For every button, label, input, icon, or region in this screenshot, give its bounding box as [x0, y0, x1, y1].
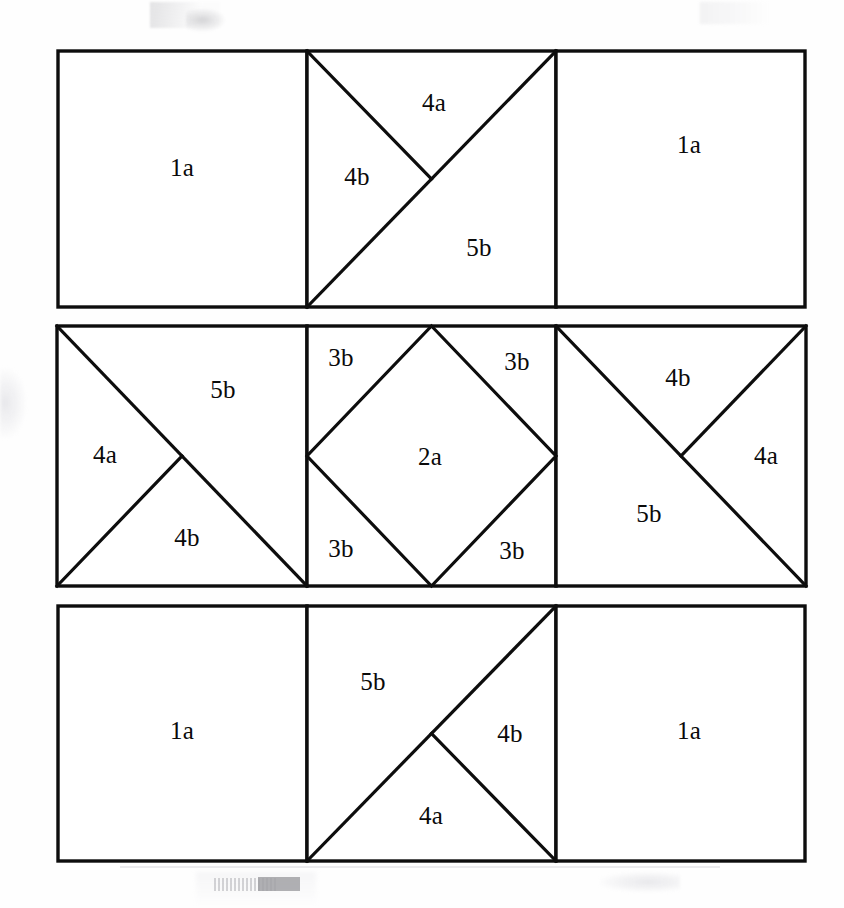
label-middle-center-3b-tr: 3b	[504, 348, 530, 375]
label-middle-center-3b-br: 3b	[499, 537, 525, 564]
label-middle-right-5b: 5b	[636, 500, 662, 527]
label-bottom-right-1a: 1a	[677, 717, 701, 744]
label-top-left-1a: 1a	[170, 154, 194, 181]
label-middle-center-3b-tl: 3b	[328, 344, 354, 371]
label-bottom-center-4a: 4a	[419, 802, 443, 829]
label-bottom-center-5b: 5b	[360, 668, 386, 695]
label-middle-right-4a: 4a	[754, 442, 778, 469]
quilt-block-svg: 1a 4a 4b 5b 1a 5b 4a 4b 3b 3b 2a	[0, 0, 844, 908]
panel-top-right	[556, 51, 805, 307]
label-top-center-5b: 5b	[466, 234, 492, 261]
label-middle-right-4b: 4b	[665, 364, 691, 391]
label-bottom-left-1a: 1a	[170, 717, 194, 744]
label-middle-left-4b: 4b	[174, 524, 200, 551]
label-middle-center-2a: 2a	[418, 443, 442, 470]
row-bottom: 1a 5b 4b 4a 1a	[58, 606, 805, 861]
label-middle-center-3b-bl: 3b	[328, 535, 354, 562]
quilt-diagram: 1a 4a 4b 5b 1a 5b 4a 4b 3b 3b 2a	[0, 0, 844, 908]
label-bottom-center-4b: 4b	[497, 720, 523, 747]
row-top: 1a 4a 4b 5b 1a	[58, 51, 805, 307]
label-top-right-1a: 1a	[677, 131, 701, 158]
label-top-center-4b: 4b	[344, 163, 370, 190]
row-middle: 5b 4a 4b 3b 3b 2a 3b 3b 4b 4a 5b	[57, 326, 806, 586]
label-middle-left-5b: 5b	[210, 376, 236, 403]
label-middle-left-4a: 4a	[93, 441, 117, 468]
label-top-center-4a: 4a	[422, 89, 446, 116]
